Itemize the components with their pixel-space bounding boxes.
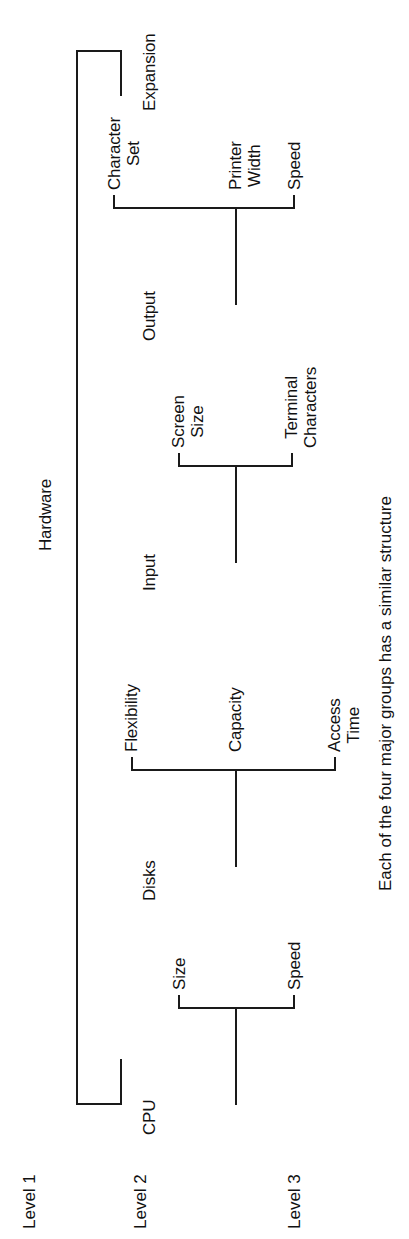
bracket-output — [113, 207, 295, 209]
node-disks-capacity: Capacity — [226, 687, 245, 752]
node-output-speed: Speed — [285, 142, 304, 190]
node-input-terminal-characters: TerminalCharacters — [282, 367, 320, 448]
node-disks-flexibility: Flexibility — [122, 684, 141, 752]
level-label-2: Level 2 — [131, 1174, 150, 1229]
level-label-1: Level 1 — [20, 1174, 39, 1229]
tree-diagram: Hardware CPU Disks Input Output Expansio… — [0, 0, 409, 1239]
bracket-input — [178, 465, 293, 467]
node-cpu-speed: Speed — [285, 942, 304, 990]
connector-trunk — [76, 50, 78, 1105]
connector-trunk-cap-left — [76, 1103, 122, 1105]
connector-disks-to-bracket — [235, 769, 237, 867]
node-output: Output — [140, 291, 159, 341]
connector-trunk-to-expansion — [120, 50, 122, 96]
connector-cpu-to-bracket — [235, 1007, 237, 1105]
bracket-cpu — [178, 1007, 295, 1009]
bracket-cpu-tip-speed — [293, 995, 295, 1009]
node-hardware: Hardware — [36, 479, 55, 579]
figure-canvas: Hardware CPU Disks Input Output Expansio… — [0, 0, 409, 1239]
figure-caption: Each of the four major groups has a simi… — [376, 496, 396, 891]
connector-trunk-cap-right — [76, 50, 122, 52]
node-disks: Disks — [140, 860, 159, 901]
bracket-cpu-tip-size — [178, 995, 180, 1009]
node-input: Input — [140, 554, 159, 591]
node-cpu-size: Size — [170, 958, 189, 990]
connector-trunk-to-cpu — [120, 1059, 122, 1105]
level-label-3: Level 3 — [285, 1174, 304, 1229]
bracket-output-tip-character-set — [113, 195, 115, 209]
node-output-printer-width: PrinterWidth — [226, 141, 264, 190]
bracket-disks-main — [131, 769, 336, 771]
bracket-input-tip-terminal — [291, 453, 293, 467]
connector-input-to-bracket — [235, 465, 237, 563]
node-disks-access-time: AccessTime — [325, 698, 363, 752]
node-expansion: Expansion — [140, 33, 159, 111]
connector-output-to-bracket — [235, 207, 237, 305]
node-input-screen-size: ScreenSize — [169, 395, 207, 448]
node-cpu: CPU — [140, 1100, 159, 1135]
bracket-disks-tip-flexibility — [131, 757, 133, 771]
node-output-character-set: CharacterSet — [105, 117, 143, 190]
bracket-disks-tip-access-time — [334, 757, 336, 771]
bracket-output-tip-speed — [293, 195, 295, 209]
bracket-input-tip-screen — [178, 453, 180, 467]
